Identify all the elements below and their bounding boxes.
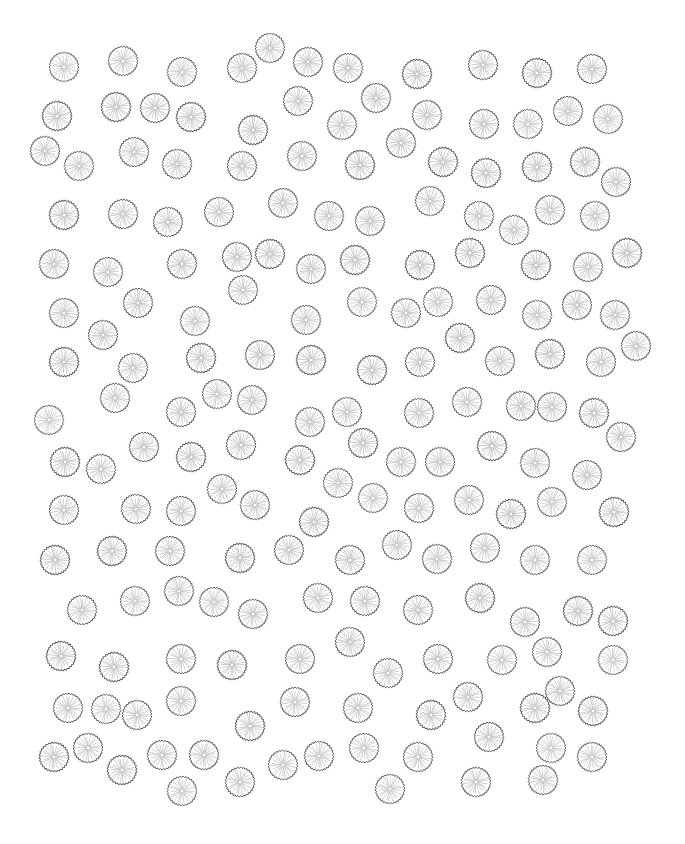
tree-canopy-icon	[198, 586, 231, 619]
tree-canopy-icon	[547, 90, 589, 132]
tree-canopy-icon	[573, 392, 614, 433]
tree-canopy-icon	[536, 733, 566, 763]
tree-canopy-icon	[179, 305, 211, 337]
tree-canopy-icon	[158, 570, 200, 612]
tree-canopy-icon	[470, 279, 512, 321]
trees-layer	[24, 31, 657, 807]
tree-canopy-icon	[541, 672, 579, 710]
tree-canopy-icon	[482, 342, 519, 379]
tree-canopy-icon	[401, 246, 440, 285]
tree-canopy-icon	[136, 89, 174, 127]
tree-canopy-icon	[280, 83, 317, 120]
tree-canopy-icon	[331, 396, 363, 428]
tree-canopy-icon	[512, 108, 543, 140]
site-plan-canvas	[0, 0, 685, 844]
tree-canopy-icon	[201, 378, 233, 410]
tree-canopy-icon	[573, 50, 611, 88]
tree-canopy-icon	[24, 130, 66, 172]
tree-canopy-icon	[92, 531, 132, 571]
tree-canopy-icon	[162, 640, 199, 677]
tree-planting-plan	[0, 0, 685, 844]
tree-canopy-icon	[329, 621, 371, 663]
tree-canopy-icon	[222, 426, 260, 464]
tree-canopy-icon	[579, 200, 612, 233]
tree-canopy-icon	[349, 200, 391, 242]
tree-canopy-icon	[607, 233, 648, 274]
tree-canopy-icon	[615, 325, 657, 367]
tree-canopy-icon	[396, 53, 437, 94]
tree-canopy-icon	[576, 545, 607, 576]
tree-canopy-icon	[450, 385, 484, 419]
tree-canopy-icon	[46, 295, 82, 331]
tree-canopy-icon	[161, 243, 202, 284]
tree-canopy-icon	[120, 585, 151, 616]
tree-canopy-icon	[160, 490, 202, 532]
tree-canopy-icon	[96, 87, 136, 126]
tree-canopy-icon	[44, 195, 85, 236]
tree-canopy-icon	[160, 391, 202, 433]
tree-canopy-icon	[556, 284, 598, 326]
tree-canopy-icon	[595, 493, 634, 532]
tree-canopy-icon	[271, 532, 307, 568]
tree-canopy-icon	[284, 138, 320, 174]
tree-canopy-icon	[115, 350, 152, 387]
tree-canopy-icon	[282, 641, 318, 677]
tree-canopy-icon	[83, 451, 120, 488]
tree-canopy-icon	[274, 681, 316, 723]
tree-canopy-icon	[43, 341, 84, 382]
tree-canopy-icon	[472, 426, 511, 466]
tree-canopy-icon	[287, 41, 329, 83]
tree-canopy-icon	[220, 538, 261, 579]
tree-canopy-icon	[534, 389, 570, 424]
tree-canopy-icon	[558, 591, 598, 631]
tree-canopy-icon	[593, 104, 624, 134]
tree-canopy-icon	[583, 344, 619, 379]
tree-canopy-icon	[440, 318, 480, 358]
tree-canopy-icon	[398, 392, 440, 434]
tree-canopy-icon	[241, 336, 279, 374]
tree-canopy-icon	[82, 314, 124, 356]
tree-canopy-icon	[340, 145, 381, 186]
tree-canopy-icon	[49, 52, 79, 82]
tree-canopy-icon	[292, 250, 330, 288]
tree-canopy-icon	[294, 502, 335, 543]
tree-canopy-icon	[37, 96, 76, 135]
tree-canopy-icon	[373, 772, 407, 806]
tree-canopy-icon	[486, 644, 518, 676]
tree-canopy-icon	[250, 234, 291, 275]
tree-canopy-icon	[232, 109, 273, 150]
tree-canopy-icon	[212, 645, 253, 686]
tree-canopy-icon	[144, 737, 179, 773]
tree-canopy-icon	[380, 528, 415, 563]
tree-canopy-icon	[343, 423, 382, 462]
tree-canopy-icon	[358, 483, 388, 514]
tree-canopy-icon	[322, 467, 354, 498]
tree-canopy-icon	[451, 234, 490, 273]
tree-canopy-icon	[383, 444, 418, 479]
tree-canopy-icon	[594, 602, 633, 641]
tree-canopy-icon	[498, 215, 529, 246]
tree-canopy-icon	[491, 494, 531, 534]
tree-canopy-icon	[597, 163, 635, 201]
tree-canopy-icon	[181, 338, 221, 378]
tree-canopy-icon	[126, 428, 163, 465]
tree-canopy-icon	[529, 333, 570, 374]
tree-canopy-icon	[529, 189, 571, 231]
tree-canopy-icon	[230, 706, 269, 745]
tree-canopy-icon	[410, 98, 443, 131]
tree-canopy-icon	[42, 637, 81, 676]
tree-canopy-icon	[516, 245, 556, 285]
tree-canopy-icon	[517, 53, 557, 93]
tree-canopy-icon	[231, 379, 273, 421]
tree-canopy-icon	[301, 581, 336, 616]
tree-canopy-icon	[514, 539, 556, 581]
tree-canopy-icon	[219, 761, 261, 803]
tree-canopy-icon	[520, 298, 553, 331]
tree-canopy-icon	[458, 195, 500, 237]
tree-canopy-icon	[147, 201, 188, 242]
tree-canopy-icon	[598, 645, 629, 675]
tree-canopy-icon	[324, 107, 359, 142]
tree-canopy-icon	[401, 343, 439, 381]
tree-canopy-icon	[219, 239, 255, 275]
tree-canopy-icon	[202, 195, 237, 230]
